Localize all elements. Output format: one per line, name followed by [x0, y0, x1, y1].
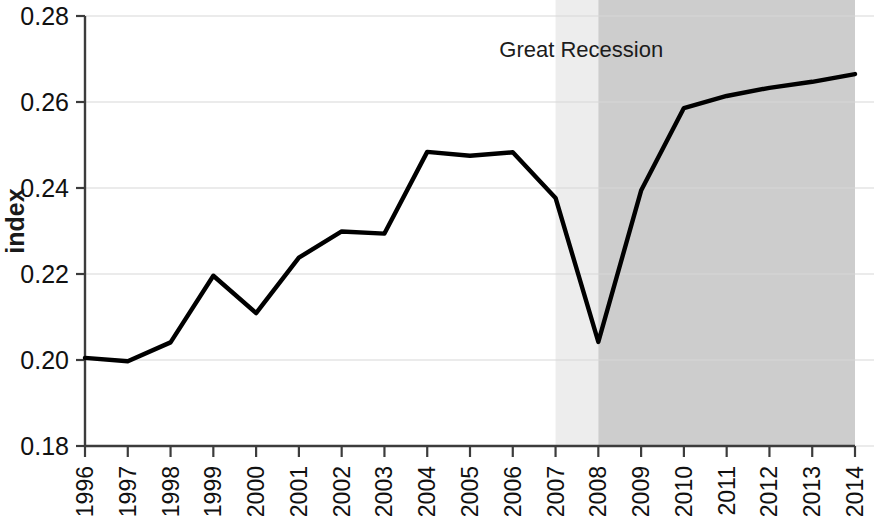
x-tick-label: 2011 — [714, 466, 740, 515]
x-tick-label: 2014 — [842, 466, 868, 517]
x-tick-label: 2006 — [500, 466, 526, 517]
x-tick-label: 2005 — [457, 466, 483, 517]
y-tick-label: 0.26 — [20, 88, 69, 116]
great-recession-band — [598, 0, 855, 446]
y-axis-title: index — [1, 188, 29, 253]
annotations-layer: Great Recession — [499, 37, 663, 62]
x-tick-label: 1999 — [200, 466, 226, 517]
y-tick-label: 0.20 — [20, 346, 69, 374]
y-axis-label: index — [1, 188, 29, 253]
x-tick-label: 2000 — [243, 466, 269, 517]
x-tick-label: 2001 — [286, 466, 312, 517]
chart-container: 0.280.260.240.220.200.18 199619971998199… — [0, 0, 874, 518]
x-tick-label: 2003 — [371, 466, 397, 517]
x-tick-label: 2012 — [756, 466, 782, 517]
y-tick-label: 0.22 — [20, 260, 69, 288]
x-tick-label: 1997 — [115, 466, 141, 517]
annotation-label: Great Recession — [499, 37, 663, 62]
y-tick-label: 0.28 — [20, 2, 69, 30]
x-tick-label: 1998 — [158, 466, 184, 517]
line-chart: 0.280.260.240.220.200.18 199619971998199… — [0, 0, 874, 518]
x-tick-label: 2008 — [585, 466, 611, 517]
x-tick-label: 2009 — [628, 466, 654, 517]
x-tick-label: 2002 — [329, 466, 355, 517]
shaded-bands-layer — [556, 0, 855, 446]
x-tick-label: 2004 — [414, 466, 440, 517]
x-tick-label: 2013 — [799, 466, 825, 517]
x-tick-label: 1996 — [72, 466, 98, 517]
x-tick-label: 2010 — [671, 466, 697, 517]
y-tick-label: 0.18 — [20, 432, 69, 460]
x-tick-label: 2007 — [543, 466, 569, 517]
